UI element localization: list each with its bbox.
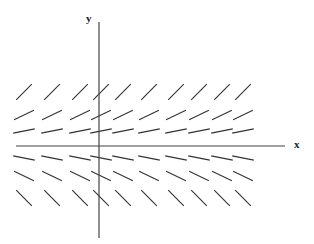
slope-segment (188, 156, 210, 160)
slope-segment (90, 129, 112, 133)
slope-segment (112, 156, 134, 160)
y-axis-label: y (86, 13, 92, 24)
slope-segment (166, 110, 186, 120)
slope-segment (168, 84, 184, 100)
slope-segment (232, 129, 254, 133)
slope-segment (138, 129, 160, 133)
slope-segment (165, 129, 187, 133)
slope-segment (113, 171, 133, 181)
slope-segment (44, 190, 60, 206)
slope-segment (188, 129, 210, 133)
slope-segment (16, 190, 32, 206)
slope-segment (90, 156, 112, 160)
slope-segment (41, 129, 63, 133)
slope-segment (232, 156, 254, 160)
slope-segment (93, 190, 109, 206)
slope-segment (214, 190, 230, 206)
slope-segment (189, 110, 209, 120)
slope-segments (13, 84, 254, 206)
slope-segment (233, 110, 253, 120)
slope-segment (14, 110, 34, 120)
slope-segment (42, 110, 62, 120)
slope-segment (72, 84, 88, 100)
slope-segment (166, 171, 186, 181)
x-axis-label: x (294, 139, 300, 150)
slope-segment (113, 110, 133, 120)
slope-segment (235, 190, 251, 206)
slope-segment (13, 156, 35, 160)
slope-segment (233, 171, 253, 181)
slope-segment (139, 110, 159, 120)
slope-segment (112, 129, 134, 133)
slope-segment (141, 84, 157, 100)
slope-segment (41, 156, 63, 160)
slope-segment (70, 110, 90, 120)
slope-field-diagram: y x (0, 0, 314, 244)
slope-segment (14, 171, 34, 181)
slope-segment (189, 171, 209, 181)
slope-segment (91, 171, 111, 181)
slope-segment (191, 84, 207, 100)
slope-segment (72, 190, 88, 206)
slope-segment (165, 156, 187, 160)
slope-segment (44, 84, 60, 100)
slope-segment (211, 156, 233, 160)
slope-segment (212, 171, 232, 181)
slope-segment (141, 190, 157, 206)
slope-segment (115, 84, 131, 100)
slope-segment (93, 84, 109, 100)
slope-segment (69, 156, 91, 160)
slope-segment (235, 84, 251, 100)
slope-segment (13, 129, 35, 133)
slope-segment (115, 190, 131, 206)
slope-segment (91, 110, 111, 120)
slope-segment (168, 190, 184, 206)
slope-field-plot (0, 0, 314, 244)
slope-segment (69, 129, 91, 133)
slope-segment (214, 84, 230, 100)
slope-segment (191, 190, 207, 206)
slope-segment (16, 84, 32, 100)
slope-segment (212, 110, 232, 120)
slope-segment (70, 171, 90, 181)
slope-segment (42, 171, 62, 181)
slope-segment (138, 156, 160, 160)
slope-segment (211, 129, 233, 133)
slope-segment (139, 171, 159, 181)
